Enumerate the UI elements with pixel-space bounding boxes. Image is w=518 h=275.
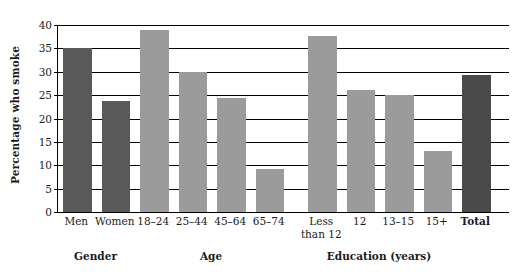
y-axis-tick-right [505,212,509,213]
y-axis-tick [54,212,58,213]
y-axis-tick-right [505,95,509,96]
y-axis-tick [54,142,58,143]
x-axis-group-labels: GenderAgeEducation (years) [57,250,504,270]
y-axis-tick-label: 0 [28,207,52,217]
bar [385,95,414,212]
bar [308,36,337,212]
bar [462,75,491,212]
group-label: Education (years) [309,250,449,263]
y-axis-tick-label: 40 [28,20,52,30]
y-axis-tick [54,119,58,120]
y-axis-tick-right [505,119,509,120]
x-axis-label: 65–74 [246,215,293,228]
x-axis-label-line2: than 12 [298,228,345,241]
y-axis-tick-label: 10 [28,160,52,170]
gridline [58,48,505,49]
y-axis-tick [54,165,58,166]
bar [102,101,131,212]
bar [424,151,453,212]
bar [179,72,208,212]
y-axis-tick-right [505,142,509,143]
gridline [58,95,505,96]
y-axis-tick-label: 5 [28,184,52,194]
x-axis-label-line1: 65–74 [246,215,293,228]
y-axis-tick-label: 30 [28,67,52,77]
y-axis-title: Percentage who smoke [6,18,24,212]
plot-area [57,25,505,213]
y-axis-tick-label: 25 [28,90,52,100]
bar [256,169,285,212]
y-axis-tick-right [505,48,509,49]
y-axis-tick-label: 15 [28,137,52,147]
x-axis-label: Total [452,215,499,228]
y-axis-tick-right [505,25,509,26]
y-axis-tick-labels: 0510152025303540 [26,0,52,275]
gridline [58,25,505,26]
smoking-percentage-bar-chart: Percentage who smoke 0510152025303540 Me… [0,0,518,275]
y-axis-tick [54,72,58,73]
bar [347,90,376,212]
y-axis-tick [54,95,58,96]
y-axis-tick-label: 35 [28,43,52,53]
x-axis-category-labels: MenWomen18–2425–4445–6465–74Lessthan 121… [57,215,504,249]
y-axis-title-text: Percentage who smoke [9,46,21,184]
y-axis-tick [54,189,58,190]
y-axis-tick-right [505,189,509,190]
y-axis-tick-label: 20 [28,114,52,124]
y-axis-tick [54,48,58,49]
bar [63,48,92,212]
y-axis-tick [54,25,58,26]
group-label: Age [141,250,281,263]
bar [217,98,246,212]
gridline [58,72,505,73]
y-axis-tick-right [505,165,509,166]
bar [140,30,169,212]
y-axis-tick-right [505,72,509,73]
x-axis-label-line1: Total [452,215,499,228]
